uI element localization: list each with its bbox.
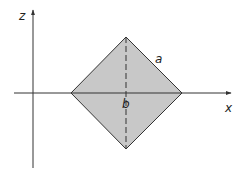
center-label-b: b xyxy=(122,97,130,111)
diagram-canvas: z x a b xyxy=(0,0,237,179)
side-label-a: a xyxy=(155,52,162,66)
x-axis-label: x xyxy=(224,101,233,115)
z-axis-label: z xyxy=(18,9,26,23)
